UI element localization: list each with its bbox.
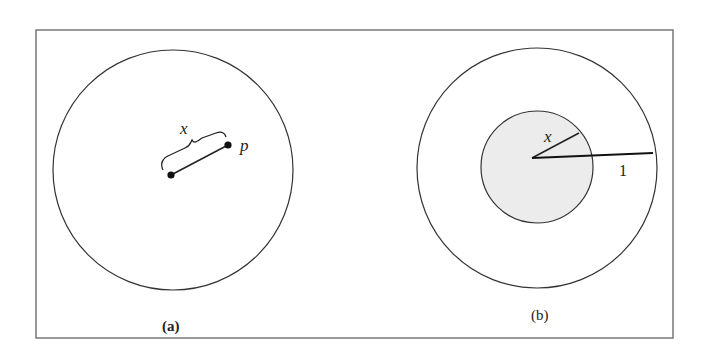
point-label: p <box>239 136 249 155</box>
caption-b: (b) <box>531 307 549 324</box>
caption-a: (a) <box>162 318 180 335</box>
panel-b: x 1 (b) <box>417 48 657 324</box>
figure-canvas: x p (a) x 1 (b) <box>0 0 703 353</box>
center-point <box>167 171 174 178</box>
unit-disk-a <box>53 50 293 290</box>
inner-radius-label: x <box>543 127 552 146</box>
distance-segment <box>171 145 228 175</box>
point-p <box>224 141 231 148</box>
inner-disk <box>481 111 593 223</box>
distance-label: x <box>179 119 188 138</box>
outer-radius-label: 1 <box>619 162 627 179</box>
panel-a: x p (a) <box>53 50 293 335</box>
